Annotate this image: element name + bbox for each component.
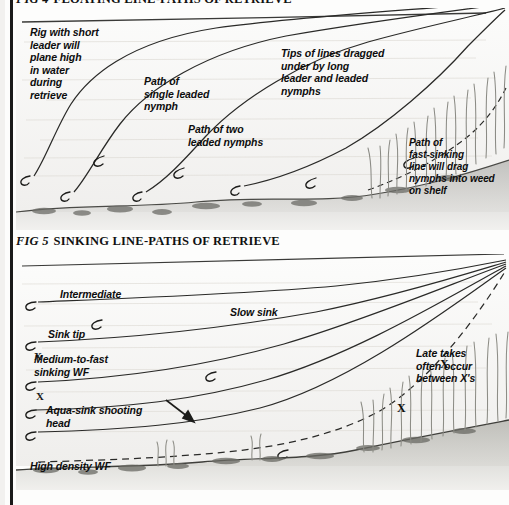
label-intermediate: Intermediate — [60, 288, 121, 301]
label-sink-tip: Sink tip — [48, 328, 85, 341]
label-aqua-sink-head: Aqua-sink shooting head — [46, 404, 142, 429]
label-two-nymphs-note: Path of two leaded nymphs — [188, 123, 263, 148]
page-gutter-rule — [10, 0, 13, 505]
figure-4-title-text: FLOATING LINE-PATHS OF RETRIEVE — [54, 0, 292, 6]
take-marker-x-left-glyph: X — [36, 390, 44, 402]
label-fast-sinking-note: Path of fast-sinking line will drag nymp… — [409, 137, 495, 197]
figure-5-title: FIG 5SINKING LINE-PATHS OF RETRIEVE — [16, 234, 280, 249]
label-medium-fast-wf: Medium-to-fast sinking WF — [34, 353, 108, 378]
label-late-takes: Late takes often occur between X's — [416, 347, 475, 385]
book-page: FIG 4FLOATING LINE-PATHS OF RETRIEVE — [0, 0, 509, 505]
label-slow-sink: Slow sink — [230, 306, 278, 319]
page-gutter-shade — [0, 0, 5, 505]
label-single-nymph-note: Path of single leaded nymph — [144, 75, 209, 113]
figure-4-title: FIG 4FLOATING LINE-PATHS OF RETRIEVE — [16, 0, 292, 7]
figure-5-title-text: SINKING LINE-PATHS OF RETRIEVE — [54, 234, 280, 248]
label-rig-note: Rig with short leader will plane high in… — [30, 26, 99, 102]
figure-5-number: FIG 5 — [16, 234, 49, 248]
figure-5: FIG 5SINKING LINE-PATHS OF RETRIEVE — [16, 234, 509, 490]
label-high-density-wf: High density WF — [30, 460, 111, 473]
figure-4-number: FIG 4 — [16, 0, 49, 6]
label-tips-dragged-note: Tips of lines dragged under by long lead… — [281, 47, 384, 97]
take-marker-x-left: X — [397, 402, 406, 415]
figure-4: FIG 4FLOATING LINE-PATHS OF RETRIEVE — [16, 0, 509, 232]
